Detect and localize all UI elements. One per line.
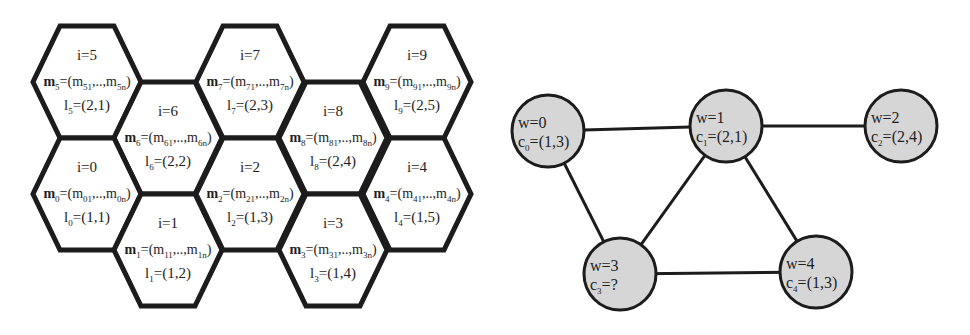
- m-equals: =(m: [223, 74, 247, 90]
- m-first-subscript: 91: [413, 82, 422, 92]
- m-symbol: m: [373, 186, 385, 201]
- node-w-text: w=4: [786, 255, 815, 272]
- graph-node-1: w=1c1=(2,1): [690, 90, 762, 162]
- node-circle: [780, 236, 852, 308]
- node-w-label: w=2: [871, 109, 900, 126]
- c-symbol: c: [871, 128, 878, 145]
- m-close: ): [126, 74, 131, 90]
- m-symbol: m: [289, 242, 301, 257]
- c-value: =?: [602, 276, 618, 293]
- m-close: ): [372, 130, 377, 146]
- m-close: ): [207, 242, 212, 258]
- node-w-text: w=1: [696, 109, 725, 126]
- m-symbol: m: [124, 130, 136, 145]
- m-close: ): [456, 74, 461, 90]
- node-w-text: w=2: [871, 109, 900, 126]
- m-equals: =(m: [306, 242, 330, 258]
- cell-index-text: i=2: [240, 159, 260, 175]
- cell-index-label: i=8: [323, 103, 343, 119]
- m-ellipsis: ,..,m: [173, 242, 198, 257]
- graph-node-4: w=4c4=(1,3): [780, 236, 852, 308]
- hex-cell-9: i=9m9=(m91,..,m9n)l9=(2,5): [363, 26, 471, 138]
- m-equals: =(m: [60, 74, 84, 90]
- m-symbol: m: [373, 74, 385, 89]
- node-circle: [690, 90, 762, 162]
- m-symbol: m: [206, 186, 218, 201]
- m-ellipsis: ,..,m: [92, 74, 117, 89]
- m-equals: =(m: [306, 130, 330, 146]
- m-ellipsis: ,..,m: [173, 130, 198, 145]
- m-ellipsis: ,..,m: [422, 74, 447, 89]
- m-symbol: m: [43, 186, 55, 201]
- m-close: ): [289, 186, 294, 202]
- c-symbol: c: [696, 128, 703, 145]
- m-first-subscript: 31: [329, 250, 338, 260]
- hexagonal-cell-grid: i=5m5=(m51,..,m5n)l5=(2,1)i=6m6=(m61,..,…: [33, 26, 471, 306]
- c-symbol: c: [786, 274, 793, 291]
- l-value: =(2,3): [236, 97, 273, 114]
- m-first-subscript: 21: [246, 194, 255, 204]
- m-symbol: m: [206, 74, 218, 89]
- node-w-text: w=3: [590, 257, 619, 274]
- m-equals: =(m: [223, 186, 247, 202]
- c-symbol: c: [590, 276, 597, 293]
- m-equals: =(m: [60, 186, 84, 202]
- c-value: =(1,3): [530, 133, 570, 151]
- l-value: =(1,1): [73, 209, 110, 226]
- figure-canvas: i=5m5=(m51,..,m5n)l5=(2,1)i=6m6=(m61,..,…: [0, 0, 970, 335]
- m-first-subscript: 61: [164, 138, 173, 148]
- cell-index-text: i=0: [77, 159, 97, 175]
- l-value: =(2,5): [403, 97, 440, 114]
- c-symbol: c: [518, 133, 525, 150]
- hex-cell-4: i=4m4=(m41,..,m4n)l4=(1,5): [363, 138, 471, 250]
- c-value: =(2,4): [883, 128, 923, 146]
- l-value: =(2,4): [319, 153, 356, 170]
- cell-index-text: i=9: [407, 47, 427, 63]
- m-equals: =(m: [141, 130, 165, 146]
- m-equals: =(m: [141, 242, 165, 258]
- cell-index-label: i=2: [240, 159, 260, 175]
- cell-index-label: i=0: [77, 159, 97, 175]
- graph-node-3: w=3c3=?: [584, 238, 656, 310]
- m-close: ): [289, 74, 294, 90]
- m-close: ): [456, 186, 461, 202]
- l-value: =(1,2): [154, 265, 191, 282]
- m-first-subscript: 81: [329, 138, 338, 148]
- m-first-subscript: 01: [83, 194, 92, 204]
- m-equals: =(m: [390, 186, 414, 202]
- cell-index-text: i=5: [77, 47, 97, 63]
- l-value: =(1,4): [319, 265, 356, 282]
- m-ellipsis: ,..,m: [338, 130, 363, 145]
- node-w-label: w=1: [696, 109, 725, 126]
- cell-index-label: i=4: [407, 159, 428, 175]
- graph-node-0: w=0c0=(1,3): [512, 95, 584, 167]
- cell-index-text: i=8: [323, 103, 343, 119]
- m-symbol: m: [289, 130, 301, 145]
- node-w-label: w=4: [786, 255, 815, 272]
- m-symbol: m: [125, 242, 137, 257]
- l-value: =(1,5): [403, 209, 440, 226]
- m-ellipsis: ,..,m: [422, 186, 447, 201]
- node-w-label: w=0: [518, 114, 547, 131]
- m-equals: =(m: [390, 74, 414, 90]
- l-value: =(1,3): [236, 209, 273, 226]
- c-value: =(1,3): [798, 274, 838, 292]
- m-first-subscript: 51: [83, 82, 92, 92]
- node-circle: [584, 238, 656, 310]
- cell-index-label: i=3: [323, 215, 343, 231]
- m-first-subscript: 71: [246, 82, 255, 92]
- c-value: =(2,1): [708, 128, 748, 146]
- cell-index-text: i=4: [407, 159, 428, 175]
- graph-node-2: w=2c2=(2,4): [865, 90, 937, 162]
- cell-index-text: i=6: [158, 103, 179, 119]
- cell-index-label: i=7: [240, 47, 261, 63]
- node-w-label: w=3: [590, 257, 619, 274]
- cell-index-text: i=3: [323, 215, 343, 231]
- graph-nodes: w=0c0=(1,3)w=1c1=(2,1)w=2c2=(2,4)w=3c3=?…: [512, 90, 937, 310]
- cell-index-label: i=1: [158, 215, 178, 231]
- m-close: ): [372, 242, 377, 258]
- cell-index-label: i=5: [77, 47, 97, 63]
- m-ellipsis: ,..,m: [338, 242, 363, 257]
- l-value: =(2,2): [154, 153, 191, 170]
- m-symbol: m: [43, 74, 55, 89]
